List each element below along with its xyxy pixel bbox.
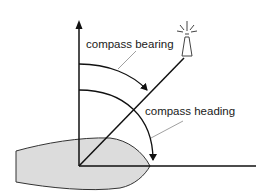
heading-leader [151,121,183,138]
boat-hull [16,138,150,190]
bearing-arc [79,64,147,90]
bearing-leader [118,51,136,69]
bearing-label: compass bearing [86,38,174,50]
north-arrow-icon [76,20,83,29]
compass-diagram: compass bearing compass heading [0,0,268,196]
heading-label: compass heading [145,105,235,117]
lighthouse-icon [177,21,197,56]
